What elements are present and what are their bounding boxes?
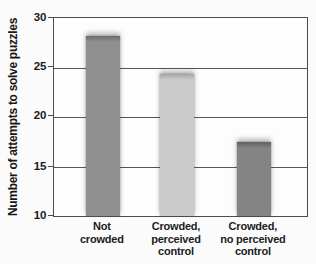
plot-area bbox=[53, 17, 308, 217]
bar-chart-figure: Number of attempts to solve puzzles 30 2… bbox=[0, 0, 316, 264]
bar-not-crowded bbox=[86, 36, 120, 216]
y-tick-label: 25 bbox=[22, 59, 46, 73]
y-axis-title: Number of attempts to solve puzzles bbox=[6, 18, 20, 216]
y-tick-label: 15 bbox=[22, 159, 46, 173]
x-axis-labels: Not crowded Crowded, perceived control C… bbox=[53, 220, 306, 262]
y-tick-label: 20 bbox=[22, 108, 46, 122]
bar-crowded-perceived-control bbox=[160, 74, 194, 216]
bar-crowded-no-perceived-control bbox=[237, 142, 271, 216]
x-label-crowded-no-perceived-control: Crowded, no perceived control bbox=[207, 220, 299, 258]
y-tick-label: 30 bbox=[22, 10, 46, 24]
y-tick-label: 10 bbox=[22, 208, 46, 222]
